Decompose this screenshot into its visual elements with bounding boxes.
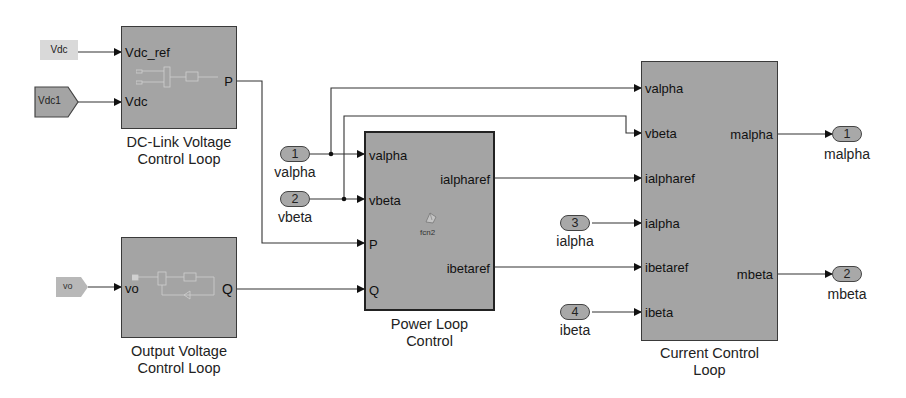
power-loop-output-ialpharef: ialpharef bbox=[440, 173, 490, 187]
branch-point-valpha bbox=[329, 152, 334, 157]
power-loop-control-name: Power Loop Control bbox=[364, 316, 495, 350]
current-control-output-malpha: malpha bbox=[730, 128, 773, 142]
current-control-name-line1: Current Control bbox=[641, 345, 778, 362]
inport-3-number: 3 bbox=[572, 216, 579, 230]
dc-link-name-line1: DC-Link Voltage bbox=[120, 134, 238, 151]
current-control-input-ialpharef: ialpharef bbox=[645, 172, 695, 186]
inport-2-name: vbeta bbox=[266, 209, 324, 225]
inport-2[interactable]: 2 bbox=[280, 191, 310, 207]
inport-4-name: ibeta bbox=[546, 322, 604, 338]
inport-1[interactable]: 1 bbox=[280, 146, 310, 162]
current-control-input-vbeta: vbeta bbox=[645, 127, 677, 141]
matlab-function-icon bbox=[424, 211, 438, 225]
current-control-input-ialpha: ialpha bbox=[645, 217, 680, 231]
branch-point-vbeta bbox=[342, 197, 347, 202]
inport-2-number: 2 bbox=[292, 192, 299, 206]
dc-link-name-line2: Control Loop bbox=[120, 151, 238, 168]
inport-4-number: 4 bbox=[572, 305, 579, 319]
current-control-name-line2: Loop bbox=[641, 362, 778, 379]
output-voltage-subsystem[interactable]: vo Q bbox=[121, 237, 237, 338]
function-name: fcn2 bbox=[420, 228, 435, 237]
vdc-constant-block[interactable]: Vdc bbox=[40, 40, 78, 60]
outport-1[interactable]: 1 bbox=[832, 126, 862, 142]
outport-1-name: malpha bbox=[814, 146, 880, 162]
current-control-input-valpha: valpha bbox=[645, 82, 683, 96]
dc-link-subsystem-name: DC-Link Voltage Control Loop bbox=[120, 134, 238, 168]
current-control-loop-subsystem[interactable]: valpha vbeta ialpharef ialpha ibetaref i… bbox=[641, 61, 778, 341]
power-loop-input-q: Q bbox=[369, 284, 379, 298]
inport-4[interactable]: 4 bbox=[560, 304, 590, 320]
outport-2-number: 2 bbox=[844, 267, 851, 281]
dc-link-input-vdcref: Vdc_ref bbox=[125, 46, 170, 60]
output-voltage-name-line1: Output Voltage bbox=[118, 343, 240, 360]
power-loop-name-line1: Power Loop bbox=[364, 316, 495, 333]
simulink-canvas: Vdc Vdc1 vo Vdc_ref Vdc P bbox=[0, 0, 906, 398]
current-control-input-ibetaref: ibetaref bbox=[645, 261, 688, 275]
inport-3-name: ialpha bbox=[546, 233, 604, 249]
outport-2-name: mbeta bbox=[814, 286, 880, 302]
power-loop-control-block[interactable]: valpha vbeta P Q ialpharef ibetaref fcn2 bbox=[364, 131, 495, 311]
dc-link-internal-icon bbox=[136, 65, 226, 89]
current-control-loop-name: Current Control Loop bbox=[641, 345, 778, 379]
output-voltage-name-line2: Control Loop bbox=[118, 360, 240, 377]
power-loop-input-vbeta: vbeta bbox=[369, 194, 401, 208]
power-loop-output-ibetaref: ibetaref bbox=[447, 262, 490, 276]
vdc-constant-label: Vdc bbox=[50, 44, 67, 55]
inport-3[interactable]: 3 bbox=[560, 215, 590, 231]
vdc1-tag-label: Vdc1 bbox=[38, 95, 61, 106]
power-loop-input-p: P bbox=[369, 238, 378, 252]
outport-1-number: 1 bbox=[844, 127, 851, 141]
outport-2[interactable]: 2 bbox=[832, 266, 862, 282]
vo-tag-label: vo bbox=[63, 281, 73, 291]
inport-1-name: valpha bbox=[266, 164, 324, 180]
dc-link-subsystem[interactable]: Vdc_ref Vdc P bbox=[121, 26, 237, 129]
current-control-input-ibeta: ibeta bbox=[645, 306, 673, 320]
inport-1-number: 1 bbox=[292, 147, 299, 161]
power-loop-input-valpha: valpha bbox=[369, 149, 407, 163]
current-control-output-mbeta: mbeta bbox=[737, 268, 773, 282]
vo-from-tag[interactable]: vo bbox=[56, 277, 89, 297]
vdc1-from-tag[interactable]: Vdc1 bbox=[34, 86, 79, 118]
power-loop-name-line2: Control bbox=[364, 333, 495, 350]
output-voltage-subsystem-name: Output Voltage Control Loop bbox=[118, 343, 240, 377]
output-voltage-internal-icon bbox=[132, 271, 227, 301]
dc-link-input-vdc: Vdc bbox=[125, 95, 147, 109]
